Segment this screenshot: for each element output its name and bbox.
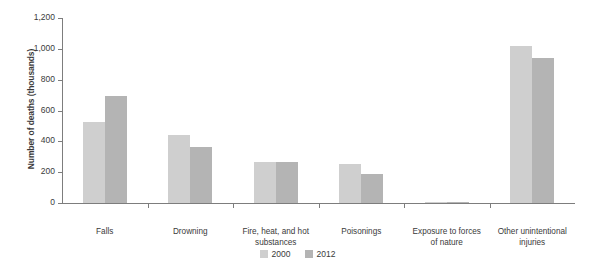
y-axis-tick: 0 [58, 203, 62, 204]
y-axis-tick-label: 1,000 [34, 43, 55, 53]
x-axis-category-label: Fire, heat, and hotsubstances [233, 227, 319, 248]
x-axis-category-label: Poisonings [319, 227, 405, 238]
plot-area: 02004006008001,0001,200 FallsDrowningFir… [62, 18, 575, 203]
y-axis-tick: 800 [58, 80, 62, 81]
y-axis-tick: 200 [58, 172, 62, 173]
bar [339, 164, 361, 203]
x-axis-category-label-line: substances [233, 238, 319, 249]
x-axis-category-label-line: Falls [62, 227, 148, 238]
bar [510, 46, 532, 203]
x-axis-category-label-line: injuries [490, 238, 576, 249]
y-axis-tick-label: 200 [41, 166, 55, 176]
x-axis-category-label-line: Other unintentional [490, 227, 576, 238]
y-axis-tick-label: 600 [41, 105, 55, 115]
bar [532, 58, 554, 203]
x-axis-tick [233, 204, 234, 208]
bar-chart: Number of deaths (thousands) 02004006008… [0, 0, 595, 269]
y-axis-line [62, 18, 63, 204]
x-axis-category-label: Falls [62, 227, 148, 238]
x-axis-category-label-line: Poisonings [319, 227, 405, 238]
x-axis-tick [148, 204, 149, 208]
x-axis-category-label-line: Drowning [148, 227, 234, 238]
y-axis-tick-label: 0 [50, 197, 55, 207]
bar [361, 174, 383, 203]
bar [276, 162, 298, 203]
chart-legend: 20002012 [0, 249, 595, 259]
legend-swatch [260, 250, 268, 258]
bar [105, 96, 127, 203]
legend-label: 2000 [272, 249, 291, 259]
bar [83, 122, 105, 203]
y-axis-tick-label: 1,200 [34, 12, 55, 22]
bar [190, 147, 212, 203]
x-axis-category-label-line: Fire, heat, and hot [233, 227, 319, 238]
legend-item: 2000 [260, 249, 291, 259]
legend-item: 2012 [305, 249, 336, 259]
bar [168, 135, 190, 203]
x-axis-category-label-line: Exposure to forces [404, 227, 490, 238]
y-axis-tick-label: 400 [41, 135, 55, 145]
x-axis-tick [319, 204, 320, 208]
bar [254, 162, 276, 203]
x-axis-category-label: Drowning [148, 227, 234, 238]
y-axis-tick: 400 [58, 141, 62, 142]
y-axis-tick: 1,200 [58, 18, 62, 19]
y-axis-tick-label: 800 [41, 74, 55, 84]
y-axis-tick: 600 [58, 111, 62, 112]
x-axis-tick [404, 204, 405, 208]
legend-swatch [305, 250, 313, 258]
legend-label: 2012 [317, 249, 336, 259]
bar [447, 202, 469, 203]
x-axis-category-label: Exposure to forcesof nature [404, 227, 490, 248]
bar [425, 202, 447, 203]
x-axis-category-label: Other unintentionalinjuries [490, 227, 576, 248]
x-axis-tick [490, 204, 491, 208]
y-axis-tick: 1,000 [58, 49, 62, 50]
x-axis-category-label-line: of nature [404, 238, 490, 249]
